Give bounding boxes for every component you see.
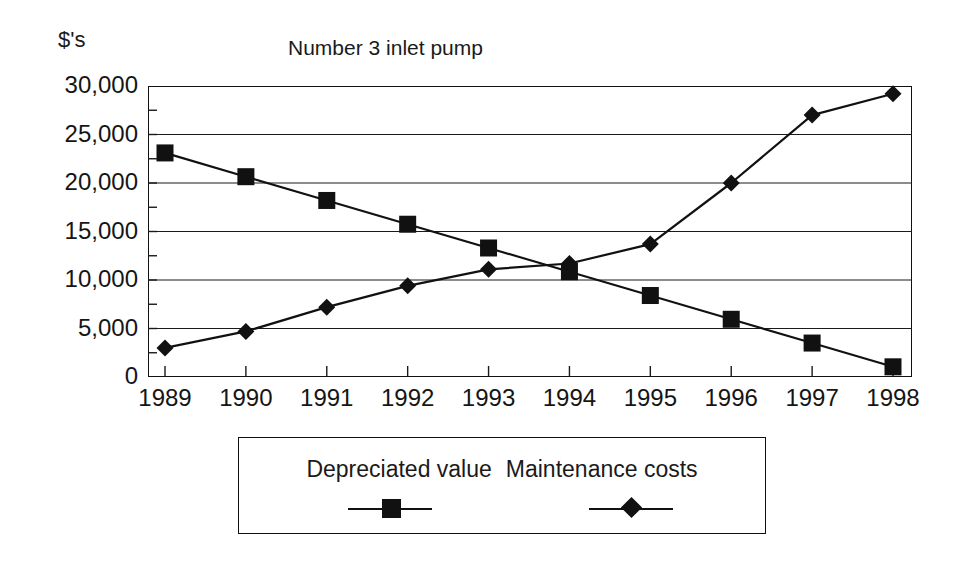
x-axis-tick-label: 1990 [201, 385, 291, 411]
legend-marker-square-icon [382, 499, 401, 518]
x-axis-tick-label: 1992 [363, 385, 453, 411]
x-axis-tick-label: 1996 [686, 385, 776, 411]
legend-label-maintenance-costs: Maintenance costs [506, 456, 698, 483]
x-axis-tick-label: 1994 [524, 385, 614, 411]
legend-label-depreciated-value: Depreciated value [306, 456, 491, 483]
x-axis-tick-label: 1993 [444, 385, 534, 411]
x-axis-tick-label: 1998 [848, 385, 938, 411]
x-axis-tick-label: 1995 [605, 385, 695, 411]
legend: Depreciated valueMaintenance costs [238, 437, 766, 534]
x-axis-tick-label: 1991 [282, 385, 372, 411]
legend-key-maintenance-costs [546, 494, 716, 524]
x-axis-tick-label: 1997 [767, 385, 857, 411]
x-axis-tick-label: 1989 [120, 385, 210, 411]
chart-figure: $'s Number 3 inlet pump 05,00010,00015,0… [0, 0, 979, 579]
legend-labels: Depreciated valueMaintenance costs [239, 456, 765, 483]
legend-key-depreciated-value [305, 494, 475, 524]
legend-markers [239, 494, 765, 524]
legend-marker-diamond-icon [621, 497, 642, 518]
